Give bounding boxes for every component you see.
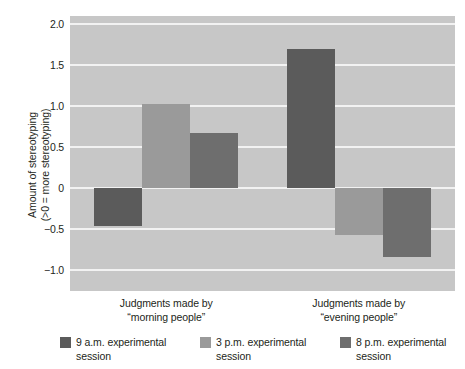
- legend-label-line-1: 3 p.m. experimental: [216, 336, 320, 350]
- y-axis-tick-label: −1.0: [28, 265, 64, 276]
- bar: [142, 104, 190, 189]
- legend-swatch: [200, 337, 211, 348]
- legend-item: 9 a.m. experimentalsession: [60, 336, 180, 363]
- legend-label-line-2: session: [76, 350, 180, 364]
- y-axis-tick-label: 0.5: [28, 142, 64, 153]
- y-axis-tick-label: 1.5: [28, 60, 64, 71]
- legend-label: 8 p.m. experimentalsession: [356, 336, 460, 363]
- gridline: [70, 269, 455, 271]
- bar: [335, 188, 383, 235]
- x-axis-category-label: Judgments made by“morning people”: [76, 297, 256, 324]
- x-axis-category-label-line: “morning people”: [76, 311, 256, 325]
- gridline: [70, 146, 455, 148]
- legend-swatch: [340, 337, 351, 348]
- y-axis-tick-label: 2.0: [28, 19, 64, 30]
- x-axis-category-label: Judgments made by“evening people”: [269, 297, 449, 324]
- plot-area: [70, 16, 455, 291]
- legend-label: 3 p.m. experimentalsession: [216, 336, 320, 363]
- y-axis-tick-label: 0: [28, 183, 64, 194]
- y-axis-tick-label: −0.5: [28, 224, 64, 235]
- legend-label-line-1: 9 a.m. experimental: [76, 336, 180, 350]
- gridline: [70, 64, 455, 66]
- gridline: [70, 105, 455, 107]
- legend-label: 9 a.m. experimentalsession: [76, 336, 180, 363]
- legend-label-line-2: session: [216, 350, 320, 364]
- x-axis-category-label-line: Judgments made by: [269, 297, 449, 311]
- legend-label-line-1: 8 p.m. experimental: [356, 336, 460, 350]
- y-axis-tick-label: 1.0: [28, 101, 64, 112]
- bar: [190, 133, 238, 188]
- legend-item: 3 p.m. experimentalsession: [200, 336, 320, 363]
- chart-legend: 9 a.m. experimentalsession3 p.m. experim…: [60, 336, 460, 368]
- y-axis-tick-labels: 2.01.51.00.50−0.5−1.0: [28, 0, 64, 369]
- bar: [94, 188, 142, 226]
- bar: [383, 188, 431, 257]
- stereotyping-bar-chart: Amount of stereotyping (>0 = more stereo…: [0, 0, 465, 369]
- x-axis-category-label-line: Judgments made by: [76, 297, 256, 311]
- legend-swatch: [60, 337, 71, 348]
- x-axis-category-label-line: “evening people”: [269, 311, 449, 325]
- gridline: [70, 23, 455, 25]
- bar: [287, 49, 335, 189]
- legend-label-line-2: session: [356, 350, 460, 364]
- x-axis-category-labels: Judgments made by“morning people”Judgmen…: [70, 297, 455, 331]
- legend-item: 8 p.m. experimentalsession: [340, 336, 460, 363]
